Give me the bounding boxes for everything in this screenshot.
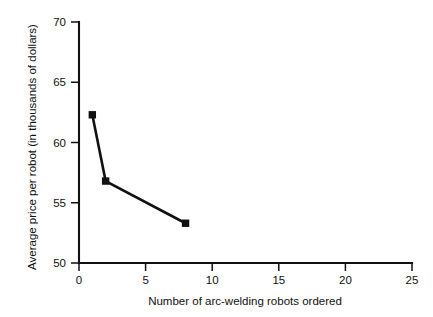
y-tick-label-50: 50 xyxy=(53,257,66,269)
x-tick-label-25: 25 xyxy=(406,274,419,286)
y-axis-title: Average price per robot (in thousands of… xyxy=(26,24,38,270)
x-axis-title: Number of arc-welding robots ordered xyxy=(148,295,342,307)
x-axis-group: 0 5 10 15 20 25 Number of arc-welding ro… xyxy=(76,263,419,307)
x-axis-ticks xyxy=(79,263,412,271)
x-tick-label-0: 0 xyxy=(76,274,82,286)
y-axis-group: 70 65 60 55 50 Average price per robot (… xyxy=(26,16,79,270)
y-tick-label-60: 60 xyxy=(53,137,66,149)
data-point-marker xyxy=(182,220,189,227)
x-tick-label-5: 5 xyxy=(142,274,148,286)
x-tick-label-20: 20 xyxy=(339,274,352,286)
x-tick-label-10: 10 xyxy=(206,274,219,286)
y-tick-label-55: 55 xyxy=(53,197,66,209)
scatter-line-plot: 70 65 60 55 50 Average price per robot (… xyxy=(0,0,433,317)
y-axis-tick-labels: 70 65 60 55 50 xyxy=(53,16,66,269)
data-series xyxy=(89,111,190,227)
data-point-marker xyxy=(102,177,109,184)
chart-figure: 70 65 60 55 50 Average price per robot (… xyxy=(0,0,433,317)
series-line xyxy=(92,115,185,223)
y-tick-label-70: 70 xyxy=(53,16,66,28)
y-axis-ticks xyxy=(71,22,79,263)
x-tick-label-15: 15 xyxy=(272,274,285,286)
x-axis-tick-labels: 0 5 10 15 20 25 xyxy=(76,274,419,286)
y-tick-label-65: 65 xyxy=(53,76,66,88)
data-point-marker xyxy=(89,111,96,118)
